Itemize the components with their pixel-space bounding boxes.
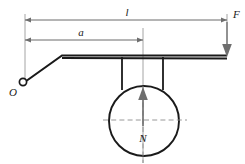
mechanics-diagram: l a F N O [0,0,245,164]
force-n-arrowhead [138,87,148,100]
label-pivot: O [9,86,17,98]
dimension-l [25,18,227,23]
dimension-a-arrowhead-left [25,38,31,43]
label-length-partial: a [78,26,84,38]
dimension-l-arrowhead-right [221,18,227,23]
pivot-joint-o [19,78,26,85]
dimension-l-arrowhead-left [25,18,31,23]
dimension-a-arrowhead-right [137,38,143,43]
label-force-normal: N [138,132,147,144]
label-length-total: l [125,6,128,18]
figure-container: l a F N O [0,0,245,164]
force-arrow-f [222,22,232,57]
dimension-a [25,38,143,43]
label-force-applied: F [232,8,240,20]
lever-beam-lower-edge [62,58,227,59]
